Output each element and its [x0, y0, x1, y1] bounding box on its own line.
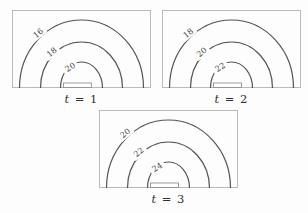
panel-t1-plot: 16 18 20 [12, 10, 151, 88]
caption-value: = 2 [225, 92, 249, 106]
domain-border [100, 111, 238, 188]
contour-label-group: 22 [211, 58, 230, 75]
caption-variable: t [152, 192, 158, 206]
contour-label-group: 20 [116, 124, 135, 142]
panel-t3-plot: 20 22 24 [99, 110, 238, 188]
caption-t1: t = 1 [12, 92, 151, 106]
contour-label-group: 18 [179, 24, 198, 42]
caption-value: = 3 [162, 192, 186, 206]
domain-border [13, 11, 151, 88]
panel-t1: 16 18 20 [12, 10, 151, 88]
caption-variable: t [65, 92, 71, 106]
contour-label-group: 24 [148, 158, 167, 175]
contour-label-group: 16 [29, 24, 48, 42]
panel-t3: 20 22 24 [99, 110, 238, 188]
caption-value: = 1 [75, 92, 99, 106]
heater-rect [214, 83, 242, 88]
domain-border [163, 11, 301, 88]
caption-t2: t = 2 [162, 92, 301, 106]
caption-variable: t [215, 92, 221, 106]
contour-label-group: 18 [42, 43, 61, 61]
caption-t3: t = 3 [99, 192, 238, 206]
panel-t2: 18 20 22 [162, 10, 301, 88]
contour-label-group: 22 [129, 143, 148, 161]
contour-label-group: 20 [192, 43, 211, 61]
contour-label-group: 20 [61, 58, 80, 75]
heater-rect [64, 83, 92, 88]
isotherm-figure: 16 18 20 t = 1 18 [0, 0, 308, 213]
panel-t2-plot: 18 20 22 [162, 10, 301, 88]
heater-rect [151, 183, 179, 188]
